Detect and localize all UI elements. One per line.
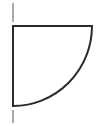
quarter-arc-drawing bbox=[0, 0, 98, 126]
figure-canvas bbox=[0, 0, 98, 126]
